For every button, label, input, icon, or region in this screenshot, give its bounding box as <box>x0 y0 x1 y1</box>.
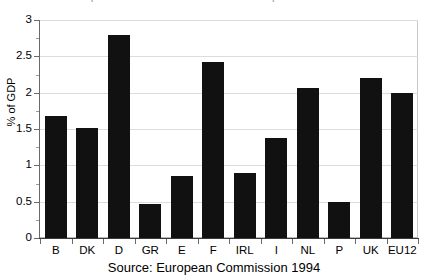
bar <box>360 78 382 238</box>
bar <box>202 62 224 238</box>
bar <box>139 204 161 238</box>
x-tick <box>198 239 199 244</box>
x-tick <box>324 239 325 244</box>
bar <box>171 176 193 239</box>
y-tick-label: 0.5 <box>0 196 32 208</box>
bar <box>265 138 287 238</box>
y-tick-label: 3 <box>0 14 32 26</box>
x-tick <box>418 239 419 244</box>
clipped-title-text: expenditure on active labour market poli… <box>78 0 312 2</box>
bar-chart: expenditure on active labour market poli… <box>0 0 428 280</box>
bar <box>297 88 319 238</box>
bar-series <box>40 20 418 238</box>
bar <box>76 128 98 239</box>
x-tick <box>229 239 230 244</box>
x-tick <box>72 239 73 244</box>
bar <box>45 116 67 238</box>
x-tick <box>166 239 167 244</box>
x-tick <box>355 239 356 244</box>
y-tick-label: 1 <box>0 159 32 171</box>
x-tick <box>292 239 293 244</box>
bar <box>391 93 413 238</box>
x-tick <box>40 239 41 244</box>
x-tick <box>103 239 104 244</box>
x-tick-label: EU12 <box>379 245 425 257</box>
source-caption: Source: European Commission 1994 <box>0 260 428 275</box>
y-tick-label: 2.5 <box>0 50 32 62</box>
x-tick <box>135 239 136 244</box>
bar <box>108 35 130 239</box>
x-tick <box>261 239 262 244</box>
bar <box>328 202 350 238</box>
y-tick-label: 2 <box>0 87 32 99</box>
y-tick-label: 1.5 <box>0 123 32 135</box>
bar <box>234 173 256 238</box>
clipped-chart-title: expenditure on active labour market poli… <box>0 0 428 7</box>
y-tick-label: 0 <box>0 232 32 244</box>
